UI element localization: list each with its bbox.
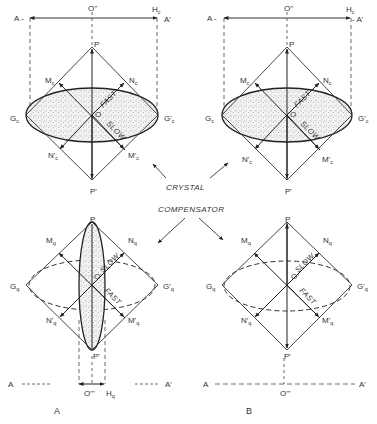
fast-direction-label: FAST [103,286,124,307]
label-nq: Nq [323,236,332,246]
panel-b-compensator: P O' P' Gq G'q Mq Nq N'q M'q SLOW FAST A… [203,215,368,416]
panel-label-a: A [54,406,60,416]
label-mq: Mq [46,236,56,246]
slow-direction-label: SLOW [293,251,316,274]
label-mc-prime: M'c [128,151,139,161]
label-gc: Gc [10,114,19,124]
label-mq-prime: M'q [322,316,333,326]
label-hq: Hq [106,389,115,399]
vector-nq-prime [255,285,287,317]
label-nq: Nq [128,236,137,246]
label-p: P [285,215,290,224]
label-p: P [289,40,294,49]
label-gc-prime: G'c [164,114,175,124]
axis-label-a: A [203,380,209,389]
axis-label-a-prime: - A' [352,15,364,24]
label-o-triple-prime: O''' [280,389,291,398]
axis-label-a-prime: A' [164,15,171,24]
label-p: P [94,40,99,49]
diagram-canvas: A - A' O'' Hc P O P' Gc G'c Mc Nc N'c M'… [0,0,377,424]
label-gc: Gc [205,114,214,124]
label-gq: Gq [206,282,215,292]
label-nc-prime: N'c [242,155,252,165]
axis-label-a: A - [14,14,24,23]
label-p-prime: P' [285,187,292,196]
label-nq-prime: N'q [241,316,251,326]
crystal-label: CRYSTAL [166,183,205,192]
label-p: P [90,215,95,224]
label-gq: Gq [10,282,19,292]
arrow-to-compensator-b [199,218,223,240]
axis-label-a: A - [207,14,217,23]
label-gq-prime: G'q [163,282,174,292]
arrow-to-compensator-a [158,218,185,243]
panel-label-b: B [246,406,252,416]
label-mq-prime: M'q [128,316,139,326]
label-o: O [95,110,101,119]
label-hc: Hc [152,5,161,15]
center-labels: CRYSTAL COMPENSATOR [153,163,228,243]
label-hc: Hc [346,5,355,15]
label-gc-prime: G'c [358,114,369,124]
label-o-triple-prime: O''' [84,389,95,398]
label-nc-prime: N'c [48,151,58,161]
compensator-label: COMPENSATOR [158,205,224,214]
label-nc: Nc [129,76,138,86]
label-mc: Mc [240,76,250,86]
label-p-prime: P' [284,352,291,361]
fast-direction-label: FAST [298,286,319,307]
panel-b-crystal: A - - A' O'' Hc P O P' Gc G'c Mc Nc N'c … [205,4,369,196]
label-mq: Mq [241,236,251,246]
panel-a-crystal: A - A' O'' Hc P O P' Gc G'c Mc Nc N'c M'… [10,4,175,196]
label-o: O [290,110,296,119]
label-nq-prime: N'q [46,316,56,326]
label-nc: Nc [323,76,332,86]
axis-label-a-prime: A' [359,380,366,389]
label-gq-prime: G'q [357,282,368,292]
axis-label-a: A [8,380,14,389]
panel-a-compensator: P O' P' Gq G'q Mq Nq N'q M'q SLOW FAST A… [8,215,174,416]
label-o-double-prime: O'' [88,4,98,13]
label-o-prime: O' [94,272,102,281]
label-mc-prime: M'c [322,155,333,165]
label-p-prime: P' [90,187,97,196]
label-mc: Mc [45,76,55,86]
arrow-to-crystal-a [153,164,166,178]
label-p-prime: P' [93,352,100,361]
axis-label-a-prime: A' [165,380,172,389]
label-o-double-prime: O'' [284,4,294,13]
arrow-to-crystal-b [210,163,228,178]
